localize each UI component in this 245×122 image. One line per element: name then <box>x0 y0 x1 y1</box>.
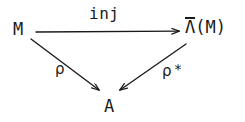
node-label-source: M <box>13 21 23 38</box>
commutative-diagram: M Λ(M) A inj ρ ρ* <box>0 0 245 122</box>
star-superscript: * <box>175 61 182 77</box>
edge-label-inj: inj <box>89 6 119 22</box>
edge-label-rho-star: ρ* <box>162 62 182 79</box>
inj-arrow-line <box>36 31 179 32</box>
edge-label-rho: ρ <box>55 62 65 77</box>
lambda-argument: (M) <box>195 17 226 37</box>
lambda-overbar-symbol: Λ <box>185 19 195 36</box>
node-label-codomain: A <box>104 98 114 115</box>
rho-symbol: ρ <box>162 62 172 80</box>
node-label-target: Λ(M) <box>185 19 226 36</box>
rho-arrow-line <box>31 39 99 90</box>
